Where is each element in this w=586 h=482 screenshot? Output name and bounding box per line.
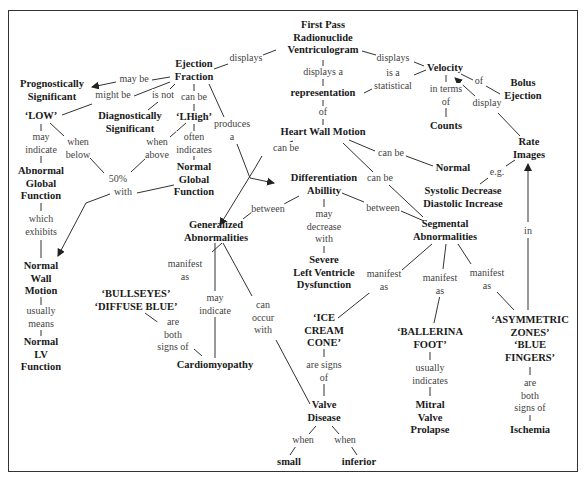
node-segmental-abnormalities: Segmental Abnormalities — [413, 218, 477, 243]
link-with: with — [114, 186, 132, 199]
node-asymmetric-zones-blue-fingers: ‘ASYMMETRIC ZONES’ ‘BLUE FINGERS’ — [491, 314, 569, 364]
link-display: display — [473, 97, 502, 110]
link-between-segmental: between — [366, 202, 399, 215]
node-valve-disease: Valve Disease — [307, 399, 340, 424]
link-ef-may-be: may be — [119, 73, 148, 86]
link-segmental-manifest-as-ice: manifest as — [367, 268, 401, 293]
node-bullseyes-diffuse-blue: ‘BULLSEYES’ ‘DIFFUSE BLUE’ — [94, 288, 177, 313]
node-ejection-fraction: Ejection Fraction — [175, 58, 214, 83]
link-eg: e.g. — [490, 166, 504, 179]
node-diagnostically-significant: Diagnostically Significant — [98, 110, 162, 135]
link-in: in — [524, 225, 532, 238]
node-prognostically-significant: Prognostically Significant — [20, 78, 84, 103]
link-lhigh-often-indicates: often indicates — [176, 131, 212, 156]
link-of-heart-wall-motion: of — [319, 106, 327, 119]
node-bolus-ejection: Bolus Ejection — [504, 77, 541, 102]
node-abnormal-global-function: Abnormal Global Function — [18, 165, 64, 203]
link-lhigh-when-above: when above — [145, 136, 169, 161]
node-rate-images: Rate Images — [513, 136, 545, 161]
node-normal: Normal — [436, 162, 470, 175]
node-heart-wall-motion: Heart Wall Motion — [281, 126, 366, 139]
node-generalized-abnormalities: Generalized Abnormalities — [184, 219, 248, 244]
node-mitral-valve-prolapse: Mitral Valve Prolapse — [411, 399, 450, 437]
node-first-pass-radionuclide-ventriculogram: First Pass Radionuclide Ventriculogram — [288, 19, 359, 57]
concept-map-edges — [0, 0, 586, 482]
node-counts: Counts — [430, 120, 462, 133]
link-which-exhibits: which exhibits — [25, 213, 57, 238]
link-usually-indicates: usually indicates — [412, 362, 448, 387]
link-are-both-signs-of-cardiomyopathy: are both signs of — [157, 316, 188, 354]
link-hwm-can-be-generalized: can be — [273, 142, 299, 155]
link-generalized-may-indicate: may indicate — [199, 292, 231, 317]
link-fprv-displays-velocity: displays — [377, 52, 410, 65]
link-segmental-manifest-as-ballerina: manifest as — [423, 272, 457, 297]
link-segmental-manifest-as-asymmetric: manifest as — [470, 267, 504, 292]
link-ef-can-be: can be — [181, 91, 207, 104]
link-is-a-statistical: is a statistical — [374, 67, 412, 92]
link-may-decrease-with: may decrease with — [307, 208, 341, 246]
link-ef-is-not: is not — [152, 89, 174, 102]
node-normal-global-function: Normal Global Function — [174, 161, 214, 199]
node-cardiomyopathy: Cardiomyopathy — [177, 359, 253, 372]
link-when-inferior: when — [334, 434, 356, 447]
link-when-small: when — [292, 434, 314, 447]
link-hwm-can-be-segmental: can be — [367, 172, 393, 185]
link-low-may-indicate: may indicate — [25, 131, 57, 156]
node-ice-cream-cone: ‘ICE CREAM CONE’ — [304, 312, 344, 350]
node-ischemia: Ischemia — [510, 424, 550, 437]
link-are-both-signs-of-ischemia: are both signs of — [514, 377, 545, 415]
link-fprv-displays-a: displays a — [303, 66, 343, 79]
link-fprv-displays-ef: displays — [230, 52, 263, 65]
link-of-bolus-ejection: of — [475, 75, 483, 88]
link-are-signs-of-valve-disease: are signs of — [306, 359, 341, 384]
link-in-terms-of: in terms of — [430, 83, 463, 108]
link-ef-produces-a: produces a — [214, 118, 250, 143]
node-velocity: Velocity — [427, 62, 463, 75]
link-between-generalized: between — [251, 203, 284, 216]
node-inferior: inferior — [342, 456, 376, 469]
link-low-when-below: when below — [66, 136, 90, 161]
node-small: small — [277, 456, 301, 469]
node-lhigh: ‘LHigh’ — [176, 111, 212, 124]
link-generalized-manifest-as: manifest as — [168, 258, 202, 283]
link-hwm-can-be-normal: can be — [378, 147, 404, 160]
node-representation: representation — [291, 87, 356, 100]
link-usually-means: usually means — [27, 305, 56, 330]
node-severe-left-ventricle-dysfunction: Severe Left Ventricle Dysfunction — [293, 254, 355, 292]
node-normal-lv-function: Normal LV Function — [21, 336, 61, 374]
link-ef-might-be: might be — [95, 89, 130, 102]
node-low: ‘LOW’ — [25, 110, 58, 123]
link-generalized-can-occur-with: can occur with — [252, 299, 274, 337]
node-normal-wall-motion: Normal Wall Motion — [24, 260, 58, 298]
node-fifty-percent: 50% — [109, 173, 127, 186]
node-systolic-decrease-diastolic-increase: Systolic Decrease Diastolic Increase — [423, 185, 502, 210]
node-ballerina-foot: ‘BALLERINA FOOT’ — [397, 326, 463, 351]
node-differentiation-ability: Differentiation Abillity — [291, 172, 357, 197]
